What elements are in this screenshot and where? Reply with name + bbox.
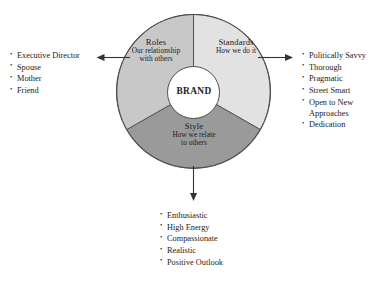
style-bullet-list: EnthusiasticHigh EnergyCompassionateReal… — [160, 210, 270, 268]
list-item: Executive Director — [10, 50, 94, 61]
brand-diagram-stage: Roles Our relationship with others Stand… — [0, 0, 375, 281]
list-item: Open to New Approaches — [302, 97, 374, 119]
list-item: Mother — [10, 73, 94, 84]
list-item: Street Smart — [302, 85, 374, 96]
brand-center-label: BRAND — [168, 86, 220, 96]
list-item: Politically Savvy — [302, 50, 374, 61]
list-item: Thorough — [302, 62, 374, 73]
list-item: Friend — [10, 85, 94, 96]
list-item: High Energy — [160, 222, 270, 233]
standards-bullet-list: Politically SavvyThoroughPragmaticStreet… — [302, 50, 374, 131]
style-arrow — [190, 166, 197, 201]
roles-bullet-list: Executive DirectorSpouseMotherFriend — [10, 50, 94, 97]
list-item: Realistic — [160, 245, 270, 256]
list-item: Pragmatic — [302, 73, 374, 84]
list-item: Enthusiastic — [160, 210, 270, 221]
list-item: Compassionate — [160, 233, 270, 244]
list-item: Spouse — [10, 62, 94, 73]
list-item: Dedication — [302, 119, 374, 130]
list-item: Positive Outlook — [160, 257, 270, 268]
